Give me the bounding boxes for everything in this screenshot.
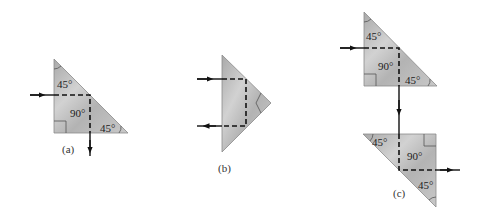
prism-diagram: 45° 90° 45° (a) (b) 45° 90° 45° 45° 90° … [0,0,483,222]
caption-b: (b) [218,162,231,175]
prism-c-top [364,12,437,86]
angle-label: 90° [407,150,422,162]
angle-label: 45° [418,179,433,191]
panel-b: (b) [197,55,271,175]
angle-label: 90° [378,60,393,72]
angle-label: 45° [372,136,387,148]
caption-c: (c) [393,187,406,200]
caption-a: (a) [62,143,75,156]
angle-label: 45° [100,122,115,134]
panel-a: 45° 90° 45° (a) [30,59,128,156]
angle-label: 45° [57,78,72,90]
angle-label: 90° [70,107,85,119]
angle-label: 45° [366,30,381,42]
panel-c: 45° 90° 45° 45° 90° 45° (c) [340,12,460,207]
prism-a [54,59,128,133]
angle-label: 45° [405,74,420,86]
